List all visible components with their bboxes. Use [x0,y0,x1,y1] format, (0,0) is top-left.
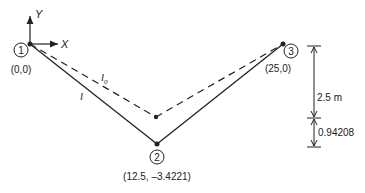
node-3-coordinates: (25,0) [265,63,291,74]
node-1: 1 (0,0) [11,42,33,76]
node-1-number: 1 [18,45,24,56]
node-3: 3 (25,0) [265,42,298,75]
node-1-coordinates: (0,0) [11,64,32,75]
deformed-member-left [30,44,157,144]
node-2-point [155,142,160,147]
dimension-annotations: 2.5 m 0.94208 [307,46,355,147]
x-axis-label: X [60,38,69,50]
undeformed-midpoint [154,115,158,119]
node-1-point [28,42,33,47]
truss-diagram: Y X l0 l 1 (0,0) 3 (25,0) 2 (12.5, –3.42… [0,0,365,193]
node-3-number: 3 [288,46,294,57]
deformed-member-right [157,44,283,144]
undeformed-member-right [156,44,283,117]
node-2-number: 2 [154,152,160,163]
deformed-length-label: l [80,90,83,102]
undeformed-member-left [30,44,156,117]
undeformed-members [30,44,283,119]
undeformed-length-label: l0 [101,71,108,86]
y-axis-label: Y [35,8,43,20]
deformed-members [30,44,283,144]
dimension-upper-label: 2.5 m [317,92,342,103]
node-2-coordinates: (12.5, –3.4221) [123,171,191,182]
dimension-lower-label: 0.94208 [318,127,355,138]
node-3-point [281,42,286,47]
node-2: 2 (12.5, –3.4221) [123,142,191,183]
coordinate-axes: Y X [30,8,69,50]
